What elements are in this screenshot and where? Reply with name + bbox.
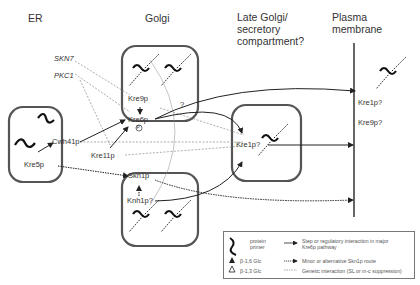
- legend-solid-2: Kre6p pathway: [302, 244, 337, 250]
- question-mark: ?: [180, 100, 184, 109]
- gene-pkc1: PKC1: [54, 71, 74, 80]
- header-golgi: Golgi: [145, 12, 170, 24]
- header-er: ER: [28, 12, 43, 24]
- label-kre1p-pm: Kre1p?: [358, 98, 382, 107]
- label-kre9p: Kre9p: [128, 94, 148, 103]
- label-skn1p: Skn1p: [128, 171, 149, 180]
- label-kre6p: Kre6p: [128, 115, 148, 124]
- label-kre11p: Kre11p: [91, 151, 115, 160]
- golgi-compartment-bottom: [122, 173, 198, 246]
- legend-b13: β-1,3 Glc: [240, 268, 261, 274]
- label-kre1p-late: Kre1p?: [236, 140, 260, 149]
- gene-skn7: SKN7: [54, 54, 74, 63]
- header-late-golgi: Late Golgi/ secretory compartment?: [237, 11, 304, 47]
- label-cwh41p: Cwh41p: [52, 137, 80, 146]
- golgi-compartment-top: [122, 46, 198, 121]
- label-knh1p: Knh1p?: [127, 196, 153, 205]
- header-plasma-membrane: Plasma membrane: [332, 11, 382, 35]
- legend-dotted: Minor or alternative Skn1p route: [302, 258, 376, 264]
- legend: protein primer β-1,6 Glc β-1,3 Glc Step …: [223, 231, 415, 279]
- legend-primer: primer: [250, 244, 265, 250]
- legend-dashed: Genetic interaction (SL or m-c suppressi…: [302, 268, 402, 274]
- phospho-label: P: [137, 124, 140, 130]
- label-kre9p-pm: Kre9p?: [358, 118, 382, 127]
- legend-b16: β-1,6 Glc: [240, 258, 261, 264]
- label-kre5p: Kre5p: [24, 160, 44, 169]
